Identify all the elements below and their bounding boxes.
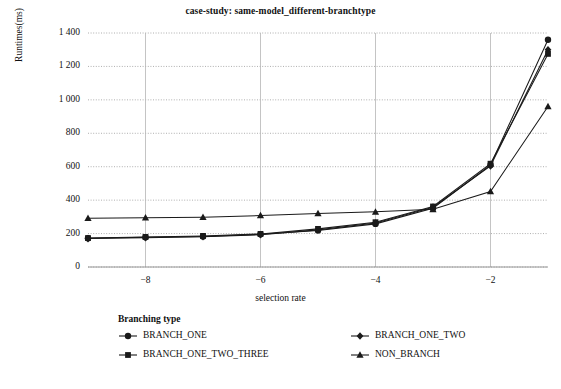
y-tick-label: 800 xyxy=(32,127,80,137)
data-point-diamond xyxy=(357,332,364,340)
x-tick-label: −6 xyxy=(241,275,281,285)
series-line-3 xyxy=(88,107,548,219)
data-point-circle xyxy=(545,36,551,42)
data-point-triangle xyxy=(487,188,494,195)
legend: Branching type BRANCH_ONEBRANCH_ONE_TWOB… xyxy=(118,314,548,360)
legend-label: BRANCH_ONE xyxy=(143,331,207,341)
y-tick-label: 600 xyxy=(32,161,80,171)
data-point-square xyxy=(258,231,264,237)
square-marker-icon xyxy=(118,350,138,360)
x-tick-label: −4 xyxy=(356,275,396,285)
circle-marker-icon xyxy=(118,331,138,341)
data-point-square xyxy=(488,161,494,167)
y-tick-label: 200 xyxy=(32,228,80,238)
legend-item[interactable]: NON_BRANCH xyxy=(350,350,548,360)
data-point-triangle xyxy=(544,103,551,110)
legend-label: BRANCH_ONE_TWO_THREE xyxy=(143,350,269,360)
y-tick-label: 1 400 xyxy=(32,27,80,37)
data-point-square xyxy=(545,51,551,57)
legend-items: BRANCH_ONEBRANCH_ONE_TWOBRANCH_ONE_TWO_T… xyxy=(118,331,548,360)
y-tick-label: 1 000 xyxy=(32,94,80,104)
diamond-marker-icon xyxy=(350,331,370,341)
series-line-0 xyxy=(88,40,548,239)
data-point-square xyxy=(315,226,321,232)
data-point-square xyxy=(125,352,131,358)
triangle-marker-icon xyxy=(350,350,370,360)
data-point-square xyxy=(373,219,379,225)
legend-label: NON_BRANCH xyxy=(375,350,440,360)
legend-item[interactable]: BRANCH_ONE_TWO xyxy=(350,331,548,341)
data-point-circle xyxy=(125,333,131,339)
y-tick-label: 0 xyxy=(32,261,80,271)
x-tick-label: −2 xyxy=(471,275,511,285)
legend-title: Branching type xyxy=(118,314,548,324)
x-tick-label: −8 xyxy=(126,275,166,285)
legend-item[interactable]: BRANCH_ONE xyxy=(118,331,350,341)
y-tick-label: 1 200 xyxy=(32,60,80,70)
chart-container: case-study: same-model_different-brancht… xyxy=(0,0,561,389)
plot-area xyxy=(0,0,561,300)
legend-item[interactable]: BRANCH_ONE_TWO_THREE xyxy=(118,350,350,360)
data-point-square xyxy=(143,234,149,240)
legend-label: BRANCH_ONE_TWO xyxy=(375,331,465,341)
data-point-square xyxy=(200,233,206,239)
data-point-square xyxy=(85,235,91,241)
y-tick-label: 400 xyxy=(32,194,80,204)
